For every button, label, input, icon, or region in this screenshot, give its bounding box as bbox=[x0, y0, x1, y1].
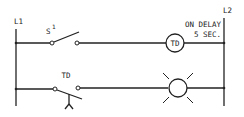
switch-superscript: 1 bbox=[52, 23, 56, 30]
rung-2: TD bbox=[15, 71, 226, 109]
switch-s1: S 1 bbox=[46, 23, 79, 45]
rung-1: S 1 TD ON DELAY 5 SEC. bbox=[15, 20, 226, 52]
coil-annotation-2: 5 SEC. bbox=[194, 30, 221, 39]
coil-annotation-1: ON DELAY bbox=[185, 20, 222, 29]
timer-coil-td: TD ON DELAY 5 SEC. bbox=[166, 20, 221, 52]
switch-label: S bbox=[46, 27, 51, 36]
timed-contact-td: TD bbox=[53, 71, 82, 109]
coil-label: TD bbox=[170, 39, 180, 48]
ladder-diagram: L1 L2 S 1 TD ON DELAY 5 SEC. bbox=[0, 0, 244, 117]
right-rail-label: L2 bbox=[223, 6, 232, 15]
left-rail-label: L1 bbox=[14, 17, 23, 26]
left-rail: L1 bbox=[14, 17, 23, 106]
right-rail: L2 bbox=[223, 6, 232, 106]
contact-label: TD bbox=[61, 71, 71, 80]
